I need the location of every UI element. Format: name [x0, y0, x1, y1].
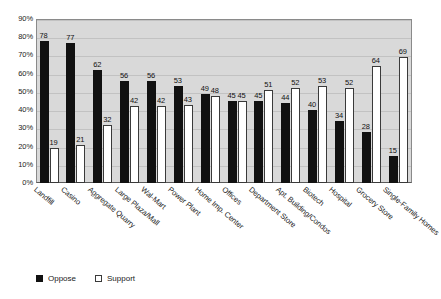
bar-group: 4545 [226, 19, 253, 183]
bar-group: 5642 [145, 19, 172, 183]
bar-value-support: 53 [313, 77, 331, 85]
bar-value-support: 52 [340, 79, 358, 87]
bar-group: 5343 [172, 19, 199, 183]
legend-item[interactable]: Oppose [36, 274, 76, 283]
bar-value-oppose: 77 [61, 34, 79, 42]
bar-group: 4948 [199, 19, 226, 183]
bar-group: 1569 [387, 19, 414, 183]
y-axis-tick-label: 10% [0, 161, 33, 169]
bar-group: 4053 [306, 19, 333, 183]
bar-value-oppose: 53 [169, 77, 187, 85]
bar-support [372, 66, 381, 183]
bar-group: 7721 [64, 19, 91, 183]
bar-support [291, 88, 300, 183]
bar-support [76, 145, 85, 183]
bar-value-support: 64 [367, 57, 385, 65]
bar-support [184, 105, 193, 183]
y-axis-tick-label: 90% [0, 15, 33, 23]
bar-support [264, 90, 273, 183]
bar-oppose [66, 43, 75, 183]
bar-value-oppose: 56 [142, 72, 160, 80]
chart-legend: OpposeSupport [36, 272, 154, 284]
y-axis-tick-label: 30% [0, 124, 33, 132]
bar-oppose [147, 81, 156, 183]
bar-oppose [362, 132, 371, 183]
bar-group: 3452 [333, 19, 360, 183]
bar-oppose [389, 156, 398, 183]
legend-swatch-icon [95, 275, 102, 282]
bars-layer: 7819772162325642564253434948454545514452… [36, 19, 412, 183]
bar-value-support: 21 [71, 136, 89, 144]
bar-value-oppose: 78 [35, 32, 53, 40]
bar-value-support: 32 [98, 116, 116, 124]
bar-support [399, 57, 408, 183]
bar-support [318, 86, 327, 183]
bar-support [238, 101, 247, 183]
bar-oppose [40, 41, 49, 183]
x-axis-tick-label: Casino [59, 185, 82, 207]
bar-oppose [93, 70, 102, 183]
x-axis-tick-label: Offices [220, 185, 243, 207]
x-axis-tick-label: Hospital [328, 185, 354, 209]
bar-value-support: 45 [233, 92, 251, 100]
legend-item[interactable]: Support [95, 274, 135, 283]
y-axis-tick-label: 0% [0, 179, 33, 187]
y-axis: 0%10%20%30%40%50%60%70%80%90% [0, 0, 33, 190]
y-axis-tick-label: 80% [0, 33, 33, 41]
bar-support [103, 125, 112, 183]
bar-group: 6232 [91, 19, 118, 183]
bar-value-support: 43 [179, 96, 197, 104]
bar-value-oppose: 56 [115, 72, 133, 80]
bar-value-oppose: 62 [88, 61, 106, 69]
bar-group: 4452 [279, 19, 306, 183]
y-axis-tick-label: 60% [0, 70, 33, 78]
bar-value-support: 19 [45, 139, 63, 147]
bar-group: 2864 [360, 19, 387, 183]
x-axis: LandfillCasinoAggregate QuarryLarge Plaz… [36, 185, 424, 265]
bar-value-support: 52 [286, 79, 304, 87]
x-axis-tick-label: Landfill [32, 185, 56, 207]
legend-label: Oppose [48, 274, 76, 283]
bar-support [130, 106, 139, 183]
bar-group: 7819 [38, 19, 65, 183]
x-axis-tick-label: Department Store [247, 185, 297, 229]
bar-oppose [201, 94, 210, 183]
bar-oppose [281, 103, 290, 183]
bar-group: 4551 [252, 19, 279, 183]
y-axis-tick-label: 50% [0, 88, 33, 96]
bar-oppose [308, 110, 317, 183]
bar-oppose [228, 101, 237, 183]
bar-value-support: 51 [259, 81, 277, 89]
bar-oppose [254, 101, 263, 183]
bar-value-support: 42 [152, 97, 170, 105]
bar-value-support: 42 [125, 97, 143, 105]
legend-swatch-icon [36, 275, 43, 282]
y-axis-tick-label: 40% [0, 106, 33, 114]
y-axis-tick-label: 20% [0, 143, 33, 151]
bar-support [157, 106, 166, 183]
bar-oppose [335, 121, 344, 183]
y-axis-tick-label: 70% [0, 51, 33, 59]
bar-value-support: 69 [394, 48, 412, 56]
bar-support [50, 148, 59, 183]
x-axis-tick-label: Aggregate Quarry [86, 185, 137, 230]
bar-support [345, 88, 354, 183]
x-axis-tick-label: Biotech [301, 185, 326, 208]
bar-support [211, 96, 220, 183]
bar-group: 5642 [118, 19, 145, 183]
legend-label: Support [107, 274, 135, 283]
bar-oppose [120, 81, 129, 183]
bar-value-support: 48 [206, 87, 224, 95]
